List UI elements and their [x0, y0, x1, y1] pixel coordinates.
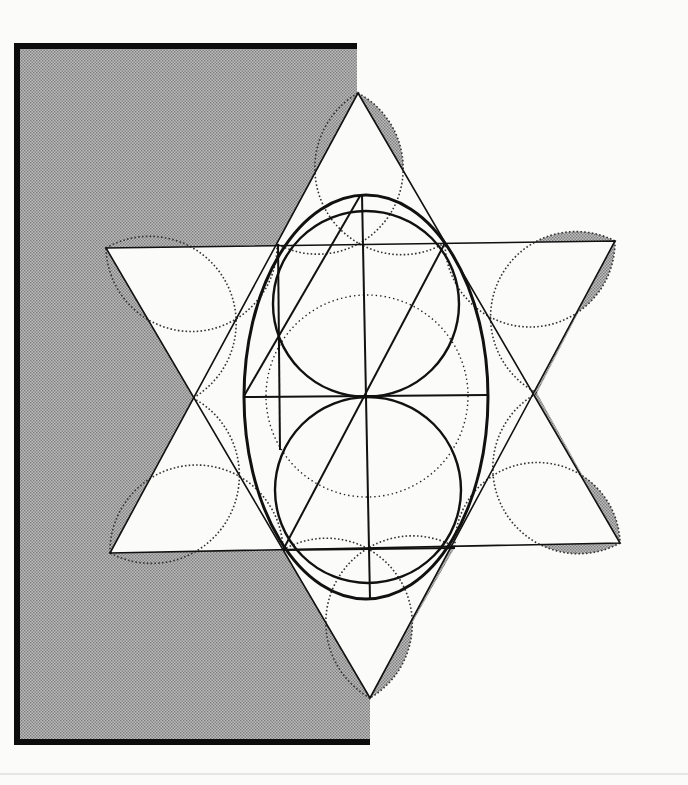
hexagram-ellipse-diagram [0, 0, 688, 785]
page-edge-rule [0, 773, 688, 775]
frame-left-bar [14, 43, 20, 745]
frame-bottom-bar [14, 739, 370, 745]
frame-top-bar [14, 43, 357, 49]
